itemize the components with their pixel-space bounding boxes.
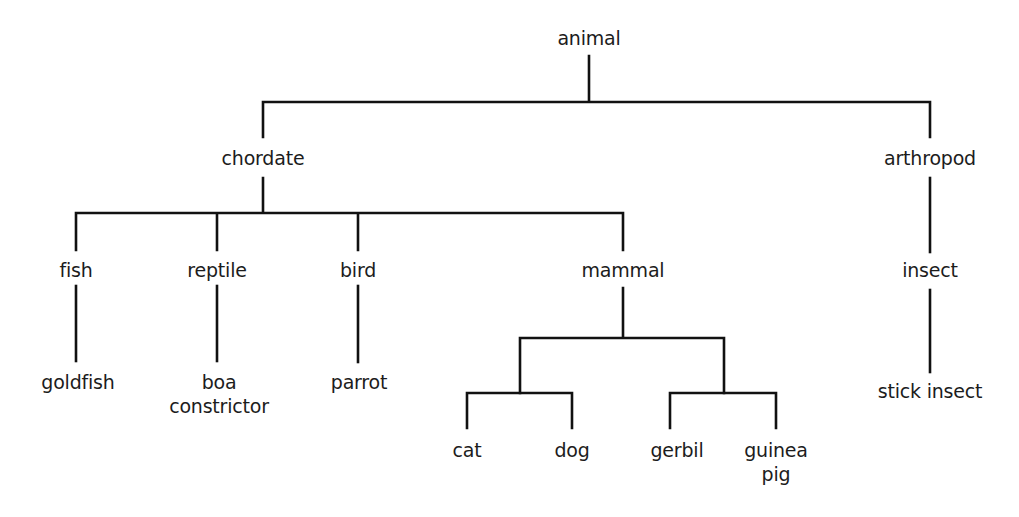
node-gerbil: gerbil <box>651 438 704 462</box>
connector-mammal <box>520 288 724 393</box>
node-guinea-pig: guinea pig <box>744 438 808 486</box>
connector-animal <box>263 56 930 137</box>
node-reptile: reptile <box>187 258 246 282</box>
node-boa-constrictor-line2: constrictor <box>169 394 269 418</box>
node-fish: fish <box>59 258 92 282</box>
node-parrot: parrot <box>331 370 387 394</box>
node-guinea-pig-line1: guinea <box>744 438 808 462</box>
connector-cat-dog <box>467 393 572 428</box>
node-boa-constrictor: boa constrictor <box>169 370 269 418</box>
connector-gerbil-guineapig <box>670 393 776 428</box>
tree-connectors <box>0 0 1019 517</box>
node-animal: animal <box>557 26 620 50</box>
node-chordate: chordate <box>222 146 305 170</box>
node-bird: bird <box>340 258 376 282</box>
node-cat: cat <box>453 438 482 462</box>
node-mammal: mammal <box>582 258 665 282</box>
node-stick-insect: stick insect <box>878 379 983 403</box>
node-guinea-pig-line2: pig <box>744 462 808 486</box>
node-arthropod: arthropod <box>884 146 976 170</box>
node-boa-constrictor-line1: boa <box>169 370 269 394</box>
node-goldfish: goldfish <box>41 370 114 394</box>
node-insect: insect <box>902 258 958 282</box>
connector-chordate <box>76 178 623 250</box>
node-dog: dog <box>554 438 589 462</box>
